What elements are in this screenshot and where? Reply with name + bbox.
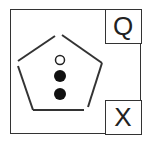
pentagon-edge-top-left bbox=[18, 36, 55, 61]
filled-dot-1 bbox=[54, 70, 66, 82]
pentagon-edge-top-right bbox=[62, 35, 102, 63]
hollow-dot bbox=[56, 56, 65, 65]
pentagon-edge-left bbox=[18, 66, 33, 110]
pentagon-edge-right bbox=[88, 63, 102, 107]
pentagon-figure bbox=[0, 0, 151, 147]
filled-dot-2 bbox=[54, 88, 66, 100]
